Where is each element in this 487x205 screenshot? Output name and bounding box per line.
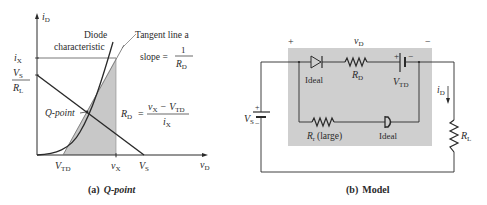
y-axis-arrow-icon [35, 13, 39, 19]
vtd-tick-label: VTD [55, 160, 70, 173]
panel-b-caption: (b)Model [346, 184, 390, 196]
battery-vs-plus: + [255, 103, 260, 112]
ix-tick-label: iX [14, 52, 22, 65]
vd-plus-sign: + [288, 36, 294, 47]
y-axis-label: iD [42, 11, 50, 24]
panel-a-qpoint-graph: iD vD Diode characteristic Tangent line … [12, 11, 210, 196]
id-label: iD [437, 85, 445, 97]
vx-tick-label: vX [111, 160, 121, 173]
rr-label: Rr(large) [306, 131, 342, 142]
diode-label-line1: Diode [84, 30, 107, 40]
battery-vtd-plus: + [394, 51, 399, 61]
qpoint-label: Q-point [45, 108, 75, 118]
vd-label: vD [354, 35, 364, 48]
diode-label-line2: characteristic [54, 42, 105, 52]
x-axis-label: vD [200, 159, 210, 172]
ideal-diode-forward-label: Ideal [305, 75, 323, 85]
resistor-rl-icon [450, 120, 458, 152]
rl-label: RL [460, 130, 471, 143]
current-id-arrow-icon [446, 98, 450, 104]
vs-tick-label: VS [139, 160, 149, 173]
qpoint-marker [86, 111, 89, 114]
vs-rl-denominator: RL [12, 82, 23, 95]
tangent-leader [122, 34, 136, 48]
vs-label: VS [244, 113, 254, 126]
qpoint-leader [80, 112, 86, 113]
diagram-canvas: iD vD Diode characteristic Tangent line … [0, 0, 487, 205]
vs-rl-numerator: VS [13, 67, 23, 80]
vd-minus-sign: − [425, 36, 431, 47]
slope-denominator: RD [175, 59, 187, 71]
rd-formula-numerator: vX−VTD [148, 101, 185, 114]
slope-numerator: 1 [181, 45, 186, 55]
rd-formula-denominator: iX [163, 116, 171, 129]
x-axis-arrow-icon [202, 153, 208, 157]
tangent-line-label: Tangent line a [135, 30, 189, 40]
battery-vtd-minus: − [408, 51, 413, 61]
panel-a-caption: (a)Q-point [88, 184, 137, 196]
rd-formula-equals: = [138, 108, 144, 119]
rd-formula-lhs: RD [120, 108, 132, 121]
battery-vs-minus: − [255, 119, 260, 128]
panel-b-circuit-model: + − vD Ideal RD + − VTD Rr(large) Ideal … [244, 35, 471, 196]
slope-label: slope = [140, 52, 168, 62]
ideal-diode-reverse-label: Ideal [379, 131, 397, 141]
